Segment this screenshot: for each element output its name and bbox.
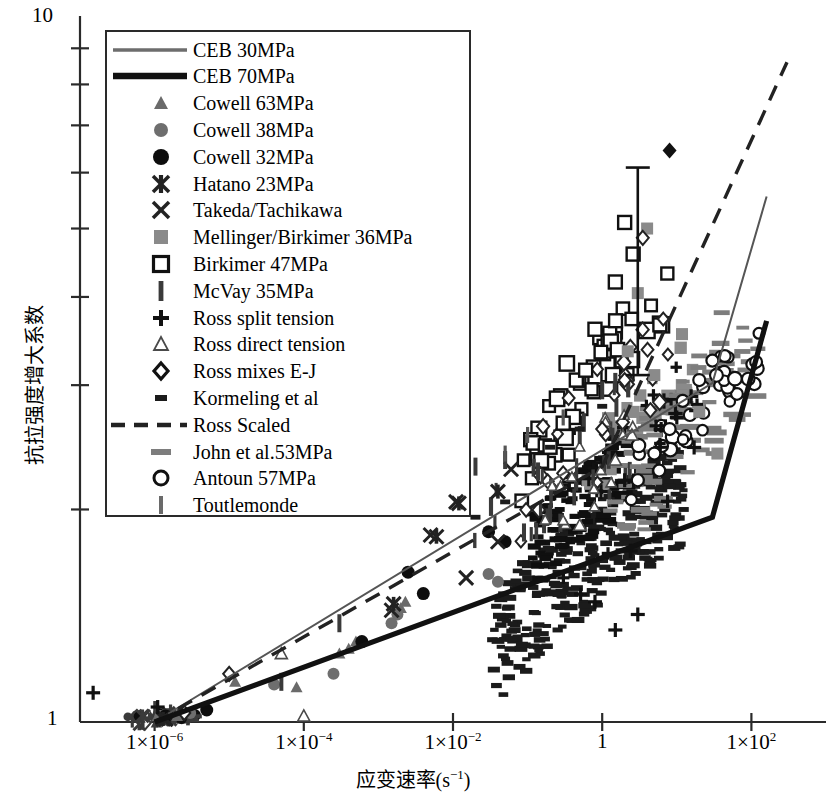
legend-label: Hatano 23MPa (191, 174, 314, 194)
data-point-plus (86, 686, 100, 700)
data-point-bar-vert (572, 489, 576, 506)
legend-label: Cowell 63MPa (191, 93, 314, 113)
data-point-bar-vert (535, 523, 539, 539)
data-point-square-open (560, 356, 574, 370)
data-point-dash-gray (638, 520, 654, 525)
data-point-dash-small (623, 555, 635, 561)
legend-key-plus (109, 304, 189, 332)
data-point-dash-small (575, 427, 585, 432)
data-point-dash-small (512, 634, 521, 638)
legend-key-circle-black (109, 143, 189, 171)
data-point-dash-small (658, 513, 668, 518)
data-point-dash-gray (738, 338, 752, 342)
data-point-dash-small (555, 507, 565, 512)
legend-label: Mellinger/Birkimer 36MPa (191, 227, 412, 247)
data-point-dash-small (497, 645, 505, 649)
data-point-dash-small (568, 573, 579, 578)
legend-key-triangle-open (109, 330, 189, 358)
legend-label: Ross split tension (191, 308, 334, 328)
data-point-dash-small (606, 568, 615, 572)
data-point-dash-small (674, 544, 685, 549)
data-point-dash-small (578, 512, 590, 518)
data-point-bar-vert (473, 458, 477, 476)
data-point-dash-small (639, 555, 650, 561)
data-point-dash-small (495, 622, 506, 627)
legend-key-square-open (109, 250, 189, 278)
data-point-dash-small (603, 528, 613, 533)
data-point-plus (631, 607, 645, 621)
data-point-dash-gray (617, 523, 636, 529)
legend-label: CEB 30MPa (191, 40, 295, 60)
data-point-bar-vert (522, 523, 526, 541)
chart-legend: CEB 30MPaCEB 70MPaCowell 63MPaCowell 38M… (105, 30, 471, 517)
data-point-square-gray (693, 406, 705, 418)
data-point-dash-small (499, 692, 509, 697)
data-point-dash-small (528, 555, 538, 560)
data-point-dash-small (550, 582, 562, 588)
legend-label: John et al.53MPa (191, 442, 332, 462)
data-point-dash-small (625, 515, 637, 521)
data-point-square-open (588, 323, 601, 336)
data-point-dash-small (550, 560, 562, 566)
data-point-plus (608, 623, 622, 637)
data-point-dash-small (532, 611, 541, 615)
data-point-dash-gray (637, 527, 650, 531)
data-point-dash-small (588, 529, 599, 534)
data-point-circle-open (728, 372, 742, 386)
data-point-circle-gray (492, 576, 504, 588)
data-point-dash-small (582, 519, 593, 524)
legend-label: Birkimer 47MPa (191, 254, 328, 274)
data-point-star-x (491, 485, 505, 499)
legend-key-line-thick (109, 62, 189, 90)
legend-key-star-x (109, 170, 189, 198)
data-point-dash-small (488, 667, 500, 673)
data-point-dash-gray (748, 393, 767, 399)
data-point-dash-small (573, 551, 583, 556)
data-point-dash-small (534, 540, 545, 545)
data-point-dash-small (501, 657, 510, 661)
data-point-dash-small (664, 483, 676, 489)
x-axis-tick-label: 1 (597, 729, 608, 754)
data-point-dash-small (629, 532, 639, 537)
data-point-circle-gray (123, 712, 132, 721)
data-point-square-open (563, 449, 575, 461)
data-point-dash-small (588, 551, 598, 556)
data-point-dash-small (490, 628, 499, 632)
data-point-circle-open (648, 448, 660, 460)
data-point-square-gray (711, 448, 723, 460)
data-point-triangle-filled (291, 681, 303, 692)
legend-key-dash-small (109, 384, 189, 412)
x-axis-tick-label: 1×102 (726, 729, 776, 755)
x-axis-title: 应变速率(s−1) (0, 764, 826, 793)
data-point-bar-thin (562, 409, 565, 425)
legend-label: Ross Scaled (191, 415, 290, 435)
data-point-dash-gray (645, 479, 662, 484)
y-axis-title: 抗拉强度增大系数 (19, 290, 48, 480)
data-point-dash-small (586, 543, 597, 548)
data-point-dash-gray (631, 507, 650, 513)
data-point-dash-gray (680, 470, 694, 474)
data-point-circle-open (632, 439, 645, 452)
legend-key-bar-thin (109, 491, 189, 519)
legend-key-line-dashed (109, 411, 189, 439)
data-point-bar-vert (489, 497, 493, 516)
data-point-dash-small (502, 606, 511, 610)
data-point-dash-small (493, 613, 506, 619)
data-point-dash-small (646, 485, 656, 490)
data-point-dash-small (608, 577, 619, 582)
x-axis-tick-label: 1×10−4 (275, 729, 332, 755)
data-point-square-open (661, 268, 673, 280)
legend-key-triangle-filled (109, 89, 189, 117)
data-point-square-open (586, 383, 598, 395)
legend-key-circle-gray (109, 116, 189, 144)
data-point-dash-small (596, 590, 607, 595)
data-point-square-gray (648, 369, 660, 381)
data-point-square-open (618, 216, 631, 229)
data-point-plus (671, 362, 682, 373)
data-point-bar-vert (607, 451, 611, 469)
legend-item-bar-thin[interactable]: Toutlemonde (107, 490, 469, 521)
data-point-dash-small (503, 674, 515, 680)
data-point-dash-small (564, 604, 577, 610)
data-point-dash-small (561, 559, 571, 564)
data-point-circle-black (417, 587, 430, 600)
